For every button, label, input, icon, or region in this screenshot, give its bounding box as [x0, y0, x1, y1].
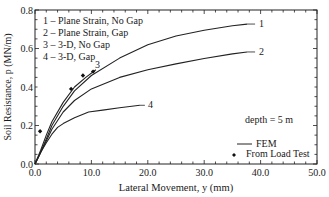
curve-label-1: 1	[259, 18, 264, 29]
curve-key: 1 – Plane Strain, No Gap 2 – Plane Strai…	[43, 15, 143, 62]
curve-key-2: 2 – Plane Strain, Gap	[43, 27, 128, 38]
curve-4	[35, 105, 140, 164]
y-axis-tick-labels: 0.00.20.40.60.8	[21, 5, 34, 170]
curve-label-2: 2	[259, 46, 264, 57]
soil-resistance-chart: 0.010.020.030.040.050.0 0.00.20.40.60.8 …	[0, 0, 329, 197]
depth-annotation: depth = 5 m	[245, 114, 293, 125]
curve-key-1: 1 – Plane Strain, No Gap	[43, 15, 143, 26]
y-tick-label: 0.4	[21, 82, 34, 93]
x-tick-label: 50.0	[308, 167, 326, 178]
y-tick-label: 0.6	[21, 43, 34, 54]
x-axis-tick-labels: 0.010.020.030.040.050.0	[29, 167, 326, 178]
load-test-point	[38, 129, 42, 133]
x-tick-label: 40.0	[252, 167, 270, 178]
legend-diamond-icon	[232, 153, 236, 157]
curve-3	[35, 70, 96, 164]
y-tick-label: 0.2	[21, 120, 34, 131]
curve-label-4: 4	[148, 99, 153, 110]
y-tick-label: 0.0	[21, 159, 34, 170]
load-test-point	[81, 73, 85, 77]
curve-label-3: 3	[95, 59, 100, 70]
curve-key-4: 4 – 3-D, Gap	[43, 51, 95, 62]
y-tick-label: 0.8	[21, 5, 34, 16]
x-axis-label: Lateral Movement, y (mm)	[119, 182, 234, 194]
legend-load-test-label: From Load Test	[246, 148, 310, 159]
legend: FEM From Load Test	[232, 138, 310, 159]
x-tick-label: 10.0	[83, 167, 101, 178]
curve-2	[35, 52, 247, 164]
x-tick-label: 30.0	[195, 167, 213, 178]
curve-key-3: 3 – 3-D, No Gap	[43, 39, 110, 50]
x-tick-label: 20.0	[139, 167, 157, 178]
y-axis-label: Soil Resistance, p (MN/m)	[2, 33, 14, 140]
